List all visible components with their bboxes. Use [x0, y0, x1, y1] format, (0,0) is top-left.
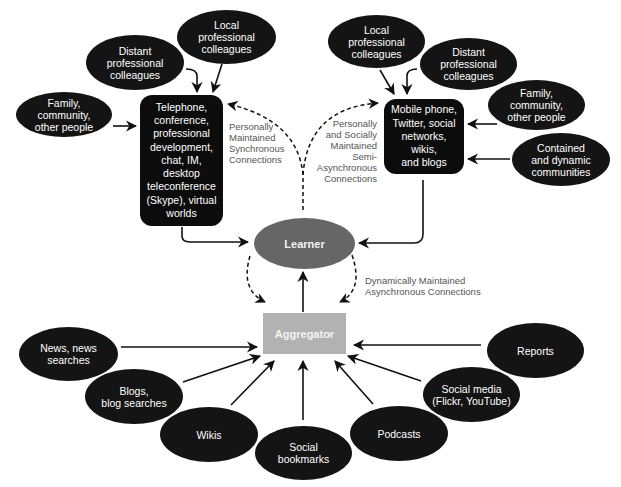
- semi-async-tools-box: Mobile phone, Twitter, social networks, …: [384, 99, 464, 174]
- learner-node: Learner: [254, 218, 355, 269]
- left-family-node: Family, community, other people: [16, 92, 112, 137]
- arrow-podcasts: [335, 361, 373, 404]
- arrow-social-media: [348, 356, 421, 381]
- arrow-rightbox-learner: [359, 180, 423, 243]
- arrow-wikis: [231, 361, 274, 405]
- dashed-learner-aggregator-left: [247, 256, 265, 302]
- contained-communities-node: Contained and dynamic communities: [512, 133, 610, 186]
- arrow-distant-right: [407, 69, 417, 94]
- synchronous-connections-label: Personally Maintained Synchronous Connec…: [229, 121, 284, 165]
- wikis-node: Wikis: [160, 407, 258, 462]
- right-distant-colleagues-node: Distant professional colleagues: [420, 38, 517, 90]
- left-local-colleagues-node: Local professional colleagues: [177, 10, 276, 64]
- right-family-node: Family, community, other people: [488, 80, 585, 130]
- semi-async-connections-label: Personally and Socially Maintained Semi-…: [310, 118, 377, 184]
- reports-node: Reports: [487, 323, 584, 378]
- arrow-leftbox-learner: [182, 227, 248, 242]
- dashed-learner-aggregator-right: [340, 255, 356, 302]
- left-distant-colleagues-node: Distant professional colleagues: [86, 35, 184, 90]
- social-bookmarks-node: Social bookmarks: [255, 426, 352, 480]
- synchronous-tools-box: Telephone, conference, professional deve…: [140, 95, 223, 226]
- social-media-node: Social media (Flickr, YouTube): [423, 367, 520, 422]
- arrow-blogs: [183, 356, 260, 382]
- blogs-node: Blogs, blog searches: [85, 369, 183, 424]
- async-connections-label: Dynamically Maintained Asynchronous Conn…: [365, 275, 481, 297]
- aggregator-node: Aggregator: [263, 313, 346, 354]
- news-node: News, news searches: [19, 327, 118, 381]
- arrow-local-left: [213, 64, 222, 92]
- arrow-local-right: [380, 70, 394, 94]
- right-local-colleagues-node: Local professional colleagues: [328, 15, 425, 68]
- podcasts-node: Podcasts: [350, 406, 448, 461]
- arrow-distant-left: [186, 69, 197, 92]
